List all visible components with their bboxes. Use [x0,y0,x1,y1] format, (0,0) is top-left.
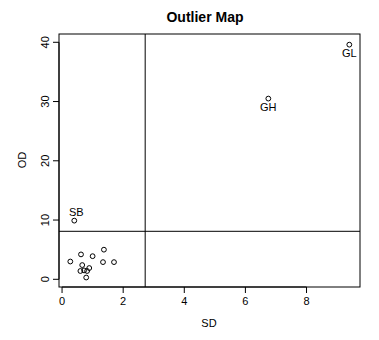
data-point [90,254,95,259]
x-tick-label: 2 [120,295,126,307]
outlier-map-chart: Outlier Map 02468 010203040 GLGHSB SD OD [0,0,379,340]
data-point [72,218,77,223]
data-point [79,252,84,257]
plot-area-frame [59,34,360,287]
x-tick-label: 6 [242,295,248,307]
x-tick-label: 8 [303,295,309,307]
x-axis-label: SD [201,317,216,329]
point-label: SB [69,206,84,218]
point-label: GH [260,101,277,113]
data-point [101,260,106,265]
data-point [84,275,89,280]
data-point [102,247,107,252]
x-tick-label: 4 [181,295,187,307]
data-point [68,259,73,264]
data-point [112,260,117,265]
y-axis-label: OD [16,152,28,169]
chart-title: Outlier Map [166,9,243,25]
cutoff-lines [59,34,360,287]
data-point [80,263,85,268]
y-tick-label: 0 [39,276,51,282]
y-tick-label: 40 [39,36,51,48]
x-tick-label: 0 [59,295,65,307]
y-axis: 010203040 [39,36,59,282]
y-tick-label: 30 [39,95,51,107]
point-label: GL [342,47,357,59]
y-tick-label: 10 [39,214,51,226]
data-points: GLGHSB [68,42,357,280]
y-tick-label: 20 [39,155,51,167]
x-axis: 02468 [59,287,310,307]
